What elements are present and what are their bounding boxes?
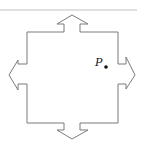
square-with-outward-arrows [9,15,135,139]
diagram-canvas: P [0,0,143,149]
point-label: P [94,56,103,69]
point-p-dot [104,65,108,69]
